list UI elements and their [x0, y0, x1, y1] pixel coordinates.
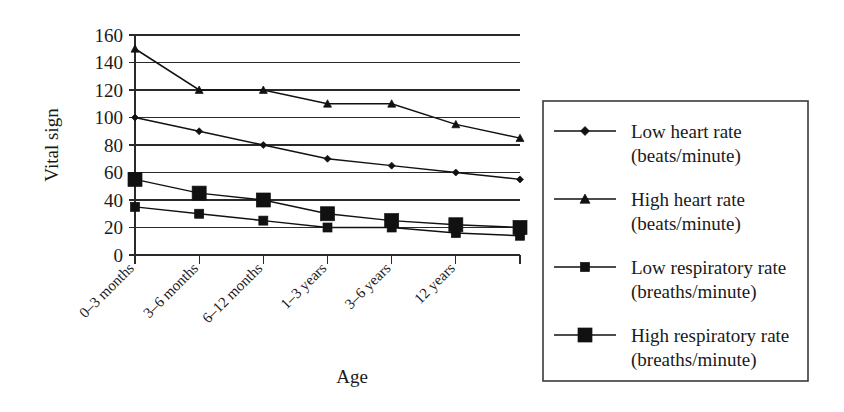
marker-square-large: [578, 328, 592, 342]
x-axis-tick-labels: 0–3 months3–6 months6–12 months1–3 years…: [76, 260, 458, 327]
y-tick-label: 80: [104, 135, 123, 156]
y-axis-title: Vital sign: [41, 108, 62, 182]
data-series-group: [128, 45, 527, 241]
legend-label: High respiratory rate: [631, 325, 789, 346]
x-tick-label: 12 years: [411, 260, 458, 307]
legend-sublabel: (breaths/minute): [631, 349, 757, 371]
y-tick-label: 140: [95, 52, 124, 73]
y-tick-label: 60: [104, 162, 123, 183]
marker-diamond: [260, 142, 267, 149]
marker-square-small: [581, 263, 590, 272]
legend-label: Low respiratory rate: [631, 257, 786, 278]
y-tick-label: 20: [104, 217, 123, 238]
x-tick-label: 0–3 months: [76, 260, 137, 321]
marker-square-large: [192, 186, 206, 200]
legend-sublabel: (breaths/minute): [631, 281, 757, 303]
marker-square-large: [321, 207, 335, 221]
marker-square-large: [256, 193, 270, 207]
marker-diamond: [324, 155, 331, 162]
y-axis-tick-labels: 020406080100120140160: [95, 25, 124, 266]
marker-square-large: [128, 172, 142, 186]
marker-diamond: [196, 128, 203, 135]
legend: Low heart rate(beats/minute)High heart r…: [543, 101, 808, 381]
legend-label: Low heart rate: [631, 121, 742, 142]
x-tick-label: 3–6 months: [140, 260, 201, 321]
marker-square-large: [385, 214, 399, 228]
legend-label: High heart rate: [631, 189, 745, 210]
series-high-heart-rate: [131, 45, 524, 142]
x-tick-label: 1–3 years: [277, 260, 329, 312]
marker-square-small: [131, 202, 140, 211]
marker-square-small: [323, 223, 332, 232]
y-tick-label: 160: [95, 25, 124, 46]
y-tick-label: 100: [95, 107, 124, 128]
vital-sign-line-chart: 020406080100120140160 0–3 months3–6 mont…: [0, 0, 844, 412]
x-axis-title: Age: [336, 366, 368, 387]
chart-page: 020406080100120140160 0–3 months3–6 mont…: [0, 0, 844, 412]
legend-sublabel: (beats/minute): [631, 213, 741, 235]
marker-triangle: [131, 45, 139, 52]
marker-square-large: [513, 221, 527, 235]
marker-square-small: [195, 209, 204, 218]
marker-diamond: [517, 176, 524, 183]
legend-sublabel: (beats/minute): [631, 145, 741, 167]
marker-square-large: [449, 218, 463, 232]
x-tick-label: 6–12 months: [199, 260, 266, 327]
marker-diamond: [132, 114, 139, 121]
marker-square-small: [259, 216, 268, 225]
marker-diamond: [388, 162, 395, 169]
series-polyline: [135, 118, 520, 180]
marker-diamond: [452, 169, 459, 176]
y-tick-label: 40: [104, 190, 123, 211]
x-tick-label: 3–6 years: [342, 260, 394, 312]
y-tick-label: 120: [95, 80, 124, 101]
y-tick-label: 0: [114, 245, 124, 266]
axis-titles: Vital signAge: [41, 108, 368, 387]
